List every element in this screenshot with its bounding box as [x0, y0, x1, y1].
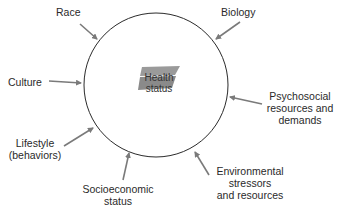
biology-label: Biology — [221, 6, 255, 18]
race-arrow — [80, 24, 97, 39]
socioeconomic-label: Socioeconomic status — [76, 183, 160, 207]
environmental-label: Environmental stressors and resources — [210, 165, 290, 201]
lifestyle-label: Lifestyle (behaviors) — [6, 137, 64, 161]
culture-arrow — [49, 81, 81, 83]
race-label: Race — [56, 6, 81, 18]
environmental-arrow — [195, 152, 209, 175]
health-status-line1: Health — [136, 72, 182, 83]
lifestyle-arrow — [64, 128, 93, 146]
psychosocial-label: Psychosocial resources and demands — [262, 90, 338, 126]
health-status-label: Health status — [136, 72, 182, 94]
socioeconomic-arrow — [123, 153, 129, 180]
health-status-diagram: Health status Race Biology Culture Psych… — [0, 0, 340, 210]
psychosocial-arrow — [230, 97, 262, 104]
health-status-line2: status — [136, 83, 182, 94]
biology-arrow — [216, 22, 240, 39]
culture-label: Culture — [8, 76, 42, 88]
